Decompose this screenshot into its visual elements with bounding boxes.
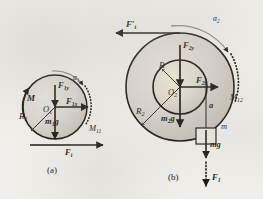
label-block-weight-mg: mg bbox=[210, 139, 222, 149]
label-friction-moment-M12: M12 bbox=[229, 92, 243, 103]
label-block-m: m bbox=[221, 121, 227, 131]
physics-free-body-diagram: M R1 O1 F1y F1x m1g α1 M11 bbox=[0, 0, 263, 199]
figure-canvas: M R1 O1 F1y F1x m1g α1 M11 bbox=[0, 0, 263, 199]
label-moment-M: M bbox=[26, 93, 36, 103]
label-block-tension-F1: F1 bbox=[211, 172, 221, 183]
label-angular-accel-a1: α1 bbox=[73, 73, 79, 83]
panel-b: F′t α2 R R2 O2 F2y F2x m2g bbox=[116, 14, 243, 186]
label-force-Ft-a: Ft bbox=[64, 147, 73, 158]
label-friction-moment-M11: M11 bbox=[88, 123, 102, 134]
label-angular-accel-a2: α2 bbox=[213, 14, 220, 24]
caption-panel-b: (b) bbox=[168, 172, 179, 182]
label-inner-radius-R: R bbox=[158, 60, 165, 70]
caption-panel-a: (a) bbox=[47, 165, 57, 175]
panel-a: M R1 O1 F1y F1x m1g α1 M11 bbox=[18, 71, 103, 175]
label-force-Ft-prime: F′t bbox=[125, 19, 137, 30]
